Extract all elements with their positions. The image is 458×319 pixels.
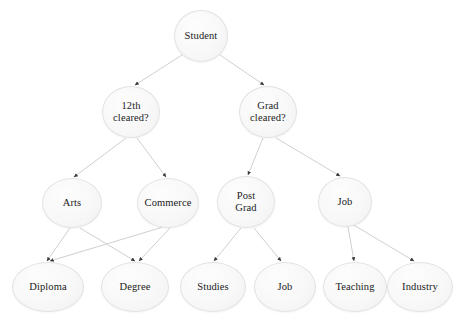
tree-node-arts[interactable]: Arts (42, 178, 102, 228)
tree-node-label-student: Student (185, 30, 218, 42)
tree-node-label-job2: Job (338, 196, 353, 208)
tree-node-job3[interactable]: Job (254, 262, 316, 312)
tree-node-job2[interactable]: Job (318, 177, 372, 227)
tree-node-twelfth[interactable]: 12th cleared? (102, 86, 160, 138)
tree-node-label-diploma: Diploma (29, 281, 66, 293)
tree-node-grad[interactable]: Grad cleared? (239, 86, 297, 138)
node-layer: Student12th cleared?Grad cleared?ArtsCom… (0, 0, 458, 319)
tree-node-degree[interactable]: Degree (101, 262, 169, 312)
tree-node-student[interactable]: Student (174, 10, 228, 62)
tree-node-studies[interactable]: Studies (180, 262, 246, 312)
tree-node-label-teaching: Teaching (335, 281, 374, 293)
tree-node-commerce[interactable]: Commerce (137, 178, 199, 228)
decision-tree-diagram: Student12th cleared?Grad cleared?ArtsCom… (0, 0, 458, 319)
tree-node-diploma[interactable]: Diploma (12, 262, 84, 312)
tree-node-label-industry: Industry (402, 281, 438, 293)
tree-node-postgrad[interactable]: Post Grad (217, 176, 275, 228)
tree-node-teaching[interactable]: Teaching (323, 262, 387, 312)
tree-node-label-degree: Degree (120, 281, 151, 293)
tree-node-label-commerce: Commerce (145, 197, 192, 209)
tree-node-label-arts: Arts (63, 197, 81, 209)
tree-node-label-job3: Job (278, 281, 293, 293)
tree-node-label-grad: Grad cleared? (250, 100, 286, 124)
tree-node-label-studies: Studies (197, 281, 229, 293)
tree-node-label-twelfth: 12th cleared? (113, 100, 149, 124)
tree-node-industry[interactable]: Industry (387, 262, 453, 312)
tree-node-label-postgrad: Post Grad (235, 190, 256, 214)
